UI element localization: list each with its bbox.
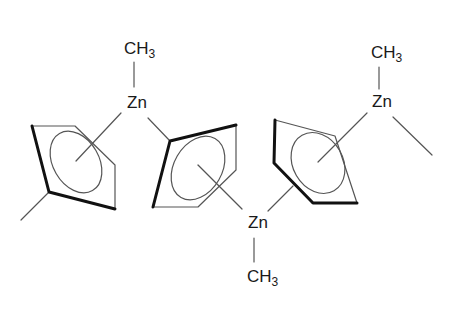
methyl-subscript: 3 (149, 47, 156, 61)
bond-ring-middle-zn2 (198, 165, 242, 209)
zn1-methyl-label: CH3 (124, 40, 155, 60)
zn2-methyl-label: CH3 (247, 268, 278, 288)
zn3-methyl-label: CH3 (371, 44, 402, 64)
ring-middle-edges (153, 125, 236, 207)
bond-zn3-ring-right (318, 113, 367, 162)
methyl-text: CH (247, 267, 272, 286)
bond-zn3-tail (393, 117, 432, 155)
bond-ring-right-zn2 (268, 186, 293, 211)
methyl-text: CH (124, 39, 149, 58)
methyl-text: CH (371, 43, 396, 62)
ring-middle-front-edge (153, 125, 236, 207)
methyl-subscript: 3 (272, 275, 279, 289)
zn3-label: Zn (372, 93, 392, 110)
methyl-subscript: 3 (396, 51, 403, 65)
zn1-label: Zn (127, 94, 147, 111)
ring-left-methyl (21, 192, 49, 220)
bond-zn1-ring-middle (148, 118, 170, 141)
bond-zn1-ring-left (76, 113, 121, 161)
chemical-structure-diagram: CH3 Zn Zn CH3 CH3 Zn (0, 0, 450, 319)
ring-middle-pi-ellipse (160, 127, 236, 210)
zn2-label: Zn (248, 214, 268, 231)
